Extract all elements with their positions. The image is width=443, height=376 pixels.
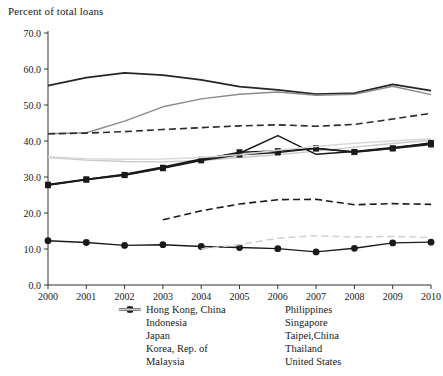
- series-marker: [45, 237, 52, 244]
- x-axis-tick-label: 2004: [191, 291, 211, 302]
- y-axis-tick-label: 10.0: [24, 244, 42, 255]
- x-axis-tick-label: 2003: [153, 291, 173, 302]
- legend-item[interactable]: Japan: [118, 330, 239, 342]
- y-axis-tick-label: 40.0: [24, 136, 42, 147]
- legend-swatch-wrap: [118, 356, 142, 367]
- series-line-thailand-upper-segment: [48, 113, 431, 134]
- y-axis-tick-label: 70.0: [24, 28, 42, 39]
- x-axis-tick-label: 2009: [383, 291, 403, 302]
- y-axis-tick-label: 20.0: [24, 208, 42, 219]
- series-marker: [428, 142, 434, 148]
- legend-column-right: PhilippinesSingaporeTaipei,ChinaThailand…: [257, 304, 378, 368]
- series-marker: [160, 241, 167, 248]
- legend-item[interactable]: Singapore: [257, 317, 378, 329]
- chart-legend: Hong Kong, ChinaIndonesiaJapanKorea, Rep…: [118, 304, 378, 368]
- y-axis-tick-label: 60.0: [24, 64, 42, 75]
- legend-item[interactable]: United States: [257, 356, 378, 368]
- legend-item[interactable]: Malaysia: [118, 356, 239, 368]
- y-axis-tick-label: 50.0: [24, 100, 42, 111]
- legend-item-label: United States: [285, 356, 341, 368]
- legend-swatch: [118, 304, 142, 315]
- legend-item[interactable]: Korea, Rep. of: [118, 343, 239, 355]
- legend-swatch-wrap: [257, 356, 281, 367]
- series-marker: [389, 239, 396, 246]
- chart-container: Percent of total loans 0.010.020.030.040…: [0, 0, 443, 376]
- series-marker: [45, 182, 51, 188]
- x-axis-tick-label: 2005: [230, 291, 250, 302]
- legend-item-label: Japan: [146, 330, 170, 342]
- x-axis-tick-label: 2010: [421, 291, 441, 302]
- legend-item-label: Taipei,China: [285, 330, 339, 342]
- x-axis-tick-label: 2001: [76, 291, 96, 302]
- legend-item-label: Indonesia: [146, 317, 187, 329]
- legend-item-label: Hong Kong, China: [146, 304, 226, 316]
- legend-item[interactable]: Taipei,China: [257, 330, 378, 342]
- series-marker: [352, 149, 358, 155]
- series-marker: [160, 165, 166, 171]
- legend-item-label: Singapore: [285, 317, 328, 329]
- legend-swatch-wrap: [257, 330, 281, 341]
- x-axis-tick-label: 2008: [344, 291, 364, 302]
- x-axis-tick-label: 2006: [268, 291, 288, 302]
- series-marker: [351, 245, 358, 252]
- series-marker: [274, 245, 281, 252]
- series-marker: [390, 146, 396, 152]
- legend-swatch-wrap: [118, 330, 142, 341]
- series-marker: [83, 177, 89, 183]
- series-marker: [198, 158, 204, 164]
- x-axis-tick-label: 2000: [38, 291, 58, 302]
- legend-swatch-wrap: [257, 317, 281, 328]
- legend-item-label: Philippines: [285, 304, 332, 316]
- legend-item-label: Korea, Rep. of: [146, 343, 208, 355]
- legend-swatch-wrap: [257, 304, 281, 315]
- legend-item-label: Malaysia: [146, 356, 185, 368]
- y-axis-tick-label: 30.0: [24, 172, 42, 183]
- series-line-thailand: [163, 199, 431, 220]
- legend-item[interactable]: Thailand: [257, 343, 378, 355]
- legend-swatch-wrap: [118, 317, 142, 328]
- y-axis-tick-label: 0.0: [29, 280, 42, 291]
- series-marker: [428, 239, 435, 246]
- series-marker: [83, 239, 90, 246]
- series-marker: [121, 242, 128, 249]
- x-axis-tick-label: 2007: [306, 291, 326, 302]
- series-marker: [313, 248, 320, 255]
- series-marker: [122, 172, 128, 178]
- legend-item[interactable]: Indonesia: [118, 317, 239, 329]
- x-axis-tick-label: 2002: [115, 291, 135, 302]
- legend-swatch-wrap: [257, 343, 281, 354]
- legend-swatch-wrap: [118, 343, 142, 354]
- legend-item-label: Thailand: [285, 343, 322, 355]
- series-line-hong-kong-china: [48, 73, 431, 94]
- legend-item[interactable]: Philippines: [257, 304, 378, 316]
